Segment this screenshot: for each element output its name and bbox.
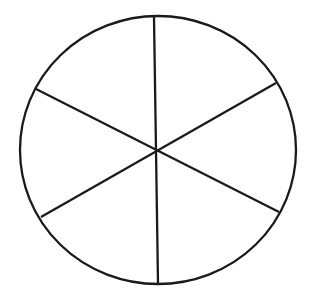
divided-circle-diagram: [0, 0, 314, 294]
dividing-line-3: [41, 83, 276, 217]
dividing-lines: [36, 17, 279, 283]
